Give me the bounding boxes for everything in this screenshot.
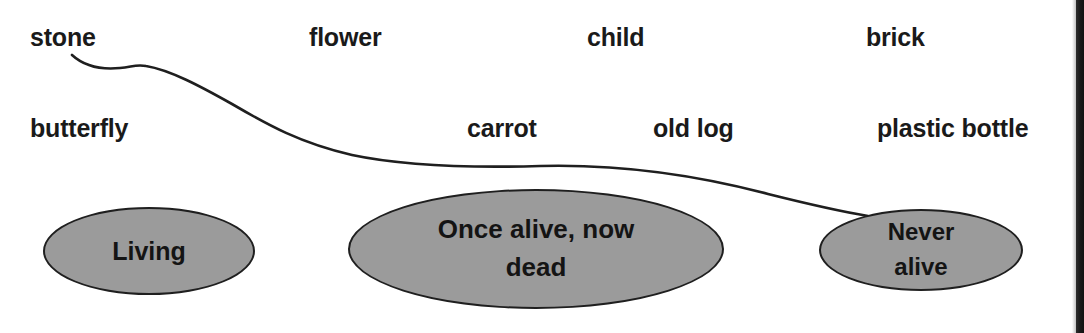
category-ellipse-once-alive-now-dead[interactable]: Once alive, now dead <box>348 189 724 309</box>
word-label-brick[interactable]: brick <box>866 24 925 50</box>
word-label-flower[interactable]: flower <box>309 24 381 50</box>
category-ellipse-living[interactable]: Living <box>43 207 255 295</box>
category-label-living: Living <box>104 233 194 269</box>
category-label-once-alive-now-dead: Once alive, now dead <box>430 211 643 286</box>
word-label-old-log[interactable]: old log <box>653 115 734 141</box>
category-ellipse-never-alive[interactable]: Never alive <box>819 209 1023 291</box>
category-label-never-alive: Never alive <box>880 215 963 285</box>
word-label-plastic-bottle[interactable]: plastic bottle <box>877 115 1028 141</box>
word-label-stone[interactable]: stone <box>30 24 96 50</box>
word-label-child[interactable]: child <box>587 24 644 50</box>
worksheet-canvas: stone flower child brick butterfly carro… <box>0 0 1084 333</box>
page-edge-dark-band <box>1076 0 1084 333</box>
word-label-butterfly[interactable]: butterfly <box>30 115 128 141</box>
word-label-carrot[interactable]: carrot <box>467 115 537 141</box>
